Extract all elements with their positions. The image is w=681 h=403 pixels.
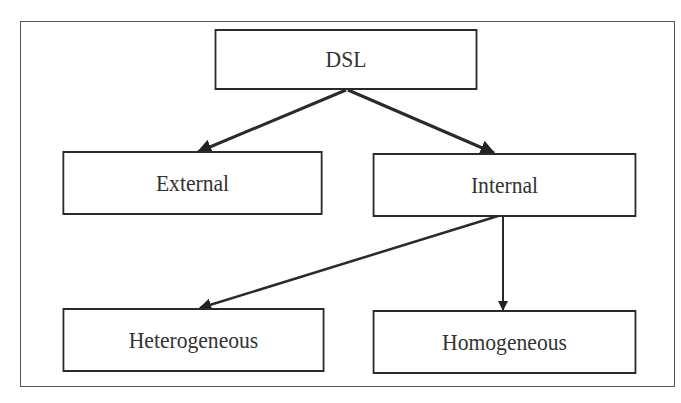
- node-external-label: External: [156, 170, 229, 197]
- node-homogeneous-label: Homogeneous: [442, 329, 567, 356]
- edge-dsl-external: [198, 90, 346, 152]
- edge-internal-heterogeneous: [200, 216, 498, 308]
- node-heterogeneous-label: Heterogeneous: [129, 327, 259, 354]
- node-homogeneous: Homogeneous: [373, 310, 637, 374]
- node-dsl: DSL: [215, 29, 478, 90]
- node-internal-label: Internal: [471, 172, 538, 199]
- node-internal: Internal: [373, 153, 637, 217]
- edge-dsl-internal: [348, 90, 494, 153]
- node-heterogeneous: Heterogeneous: [63, 308, 325, 372]
- node-external: External: [62, 151, 322, 215]
- node-dsl-label: DSL: [326, 46, 367, 73]
